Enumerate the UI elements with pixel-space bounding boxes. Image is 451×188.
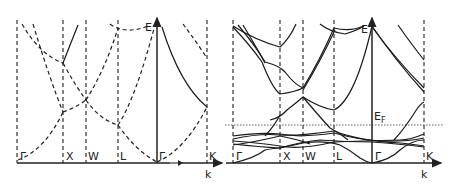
label-x: X <box>66 150 74 163</box>
left-panel: Γ X W L Γ K E k <box>17 18 222 181</box>
label-k-point: K <box>209 150 217 163</box>
real-bands <box>233 24 424 163</box>
label-k-point: K <box>426 150 434 163</box>
label-gamma-2: Γ <box>159 150 166 163</box>
label-l: L <box>336 150 343 163</box>
free-electron-bands <box>18 24 207 162</box>
band-structure-figure: Γ X W L Γ K E k <box>0 0 451 188</box>
label-gamma-1: Γ <box>236 150 243 163</box>
label-k-axis: k <box>205 168 212 181</box>
label-l: L <box>120 150 127 163</box>
label-w: W <box>305 150 316 163</box>
label-energy: E <box>145 21 152 34</box>
label-w: W <box>88 150 99 163</box>
label-fermi-energy: EF <box>374 110 386 125</box>
label-gamma-2: Γ <box>375 150 382 163</box>
label-x: X <box>283 150 291 163</box>
symmetry-lines <box>17 20 207 163</box>
label-energy: E <box>361 23 368 36</box>
label-k-axis: k <box>421 168 428 181</box>
label-gamma-1: Γ <box>20 150 27 163</box>
right-panel: Γ X W L Γ K E EF k <box>225 18 443 181</box>
